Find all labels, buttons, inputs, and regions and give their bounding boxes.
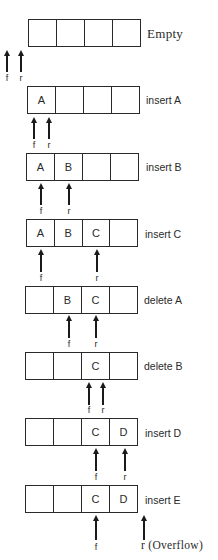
operation-label-insert-e: insert E xyxy=(145,494,181,506)
queue-array-insert-b: A B xyxy=(26,153,139,181)
queue-cell: D xyxy=(110,419,137,445)
queue-cell: B xyxy=(55,154,83,180)
queue-cell: D xyxy=(110,486,137,512)
queue-cell: A xyxy=(28,87,56,113)
queue-cell xyxy=(56,87,84,113)
operation-label-delete-a: delete A xyxy=(144,294,182,306)
queue-array-insert-a: A xyxy=(27,86,140,114)
rear-pointer-label: r xyxy=(68,206,71,216)
queue-cell xyxy=(84,87,112,113)
front-pointer-label: f xyxy=(40,273,43,283)
queue-array-insert-c: A B C xyxy=(26,219,138,247)
operation-label-insert-c: insert C xyxy=(145,228,181,240)
front-pointer-label: f xyxy=(40,206,43,216)
queue-cell xyxy=(54,353,82,379)
rear-pointer-overflow-label: r (Overflow) xyxy=(141,540,203,550)
queue-cell xyxy=(111,154,138,180)
queue-cell: A xyxy=(27,154,55,180)
operation-label-insert-b: insert B xyxy=(146,161,182,173)
front-pointer-label: f xyxy=(33,140,36,150)
queue-cell: C xyxy=(82,287,110,313)
queue-array-delete-a: B C xyxy=(25,286,138,314)
queue-cell xyxy=(110,220,137,246)
queue-cell xyxy=(57,20,85,46)
rear-pointer-label: r xyxy=(48,140,51,150)
queue-cell xyxy=(112,87,139,113)
front-pointer-label: f xyxy=(68,339,71,349)
queue-array-insert-d: C D xyxy=(25,418,138,446)
queue-cell xyxy=(85,20,113,46)
queue-cell: C xyxy=(82,353,110,379)
queue-cell xyxy=(26,419,54,445)
queue-cell: C xyxy=(83,220,111,246)
queue-cell xyxy=(54,419,82,445)
queue-cell: C xyxy=(82,486,110,512)
queue-cell xyxy=(54,486,82,512)
queue-cell xyxy=(83,154,111,180)
front-pointer-label: f xyxy=(95,542,98,552)
rear-pointer-label: r xyxy=(96,273,99,283)
queue-cell xyxy=(26,486,54,512)
queue-cell: A xyxy=(27,220,55,246)
queue-cell xyxy=(26,287,54,313)
queue-cell xyxy=(110,353,137,379)
front-pointer-label: f xyxy=(95,472,98,482)
queue-array-empty xyxy=(28,19,141,47)
operation-label-delete-b: delete B xyxy=(144,360,183,372)
rear-pointer-label: r xyxy=(20,73,23,83)
queue-cell xyxy=(113,20,140,46)
rear-pointer-label: r xyxy=(124,472,127,482)
front-pointer-label: f xyxy=(88,405,91,415)
queue-cell xyxy=(110,287,137,313)
queue-cell: B xyxy=(54,287,82,313)
operation-label-insert-a: insert A xyxy=(146,94,181,106)
operation-label-empty: Empty xyxy=(147,27,183,41)
rear-pointer-label: r xyxy=(95,339,98,349)
queue-cell: B xyxy=(55,220,83,246)
queue-array-delete-b: C xyxy=(25,352,138,380)
front-pointer-label: f xyxy=(6,73,9,83)
queue-cell xyxy=(29,20,57,46)
rear-pointer-label: r xyxy=(102,405,105,415)
queue-cell: C xyxy=(82,419,110,445)
queue-cell xyxy=(26,353,54,379)
queue-array-insert-e: C D xyxy=(25,485,138,513)
operation-label-insert-d: insert D xyxy=(145,427,181,439)
